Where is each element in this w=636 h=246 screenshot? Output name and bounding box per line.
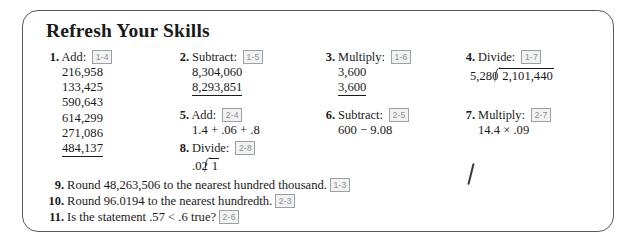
problem-4-reference-tag: 1-7 bbox=[521, 50, 541, 64]
problem-6-verb: Subtract: bbox=[338, 108, 383, 122]
question-11-number: 11. bbox=[42, 210, 64, 226]
problem-7: 7. Multiply: 2-7 14.4 × .09 bbox=[458, 108, 551, 138]
operand-last: 484,137 bbox=[62, 141, 103, 157]
problem-7-number: 7. bbox=[458, 108, 475, 123]
operand: 271,086 bbox=[62, 126, 112, 141]
operand-last: 3,600 bbox=[338, 80, 366, 96]
problem-4-long-division: 5,2802,101,440 bbox=[458, 68, 554, 84]
operand-last: 8,293,851 bbox=[192, 80, 242, 96]
operand: 8,304,060 bbox=[192, 65, 263, 80]
problem-2-number: 2. bbox=[172, 50, 189, 65]
problem-4-verb: Divide: bbox=[478, 50, 515, 64]
problem-1-verb: Add: bbox=[61, 50, 86, 64]
operand: 133,425 bbox=[62, 80, 112, 95]
page-title: Refresh Your Skills bbox=[46, 20, 210, 42]
problem-5-heading: 5. Add: 2-4 bbox=[172, 108, 260, 123]
question-10-text: Round 96.0194 to the nearest hundredth. bbox=[67, 194, 272, 208]
worksheet-page: Refresh Your Skills 1. Add: 1-4 216,958 … bbox=[0, 0, 636, 246]
problem-1-heading: 1. Add: 1-4 bbox=[42, 50, 112, 65]
dividend: 2,101,440 bbox=[499, 68, 553, 84]
problem-6-heading: 6. Subtract: 2-5 bbox=[318, 108, 409, 123]
problem-2-operands: 8,304,060 8,293,851 bbox=[172, 65, 263, 96]
problem-2: 2. Subtract: 1-5 8,304,060 8,293,851 bbox=[172, 50, 263, 96]
problem-7-reference-tag: 2-7 bbox=[531, 108, 551, 122]
question-11-text: Is the statement .57 < .6 true? bbox=[67, 210, 216, 224]
problem-7-heading: 7. Multiply: 2-7 bbox=[458, 108, 551, 123]
problem-5-expression: 1.4 + .06 + .8 bbox=[172, 123, 260, 138]
problem-2-reference-tag: 1-5 bbox=[243, 50, 263, 64]
problem-8: 8. Divide: 2-8 .021 bbox=[172, 141, 255, 174]
problem-8-verb: Divide: bbox=[192, 141, 229, 155]
question-10-number: 10. bbox=[42, 194, 64, 210]
operand: 614,299 bbox=[62, 111, 112, 126]
problem-8-number: 8. bbox=[172, 141, 189, 156]
operand: 216,958 bbox=[62, 65, 112, 80]
problem-1: 1. Add: 1-4 216,958 133,425 590,643 614,… bbox=[42, 50, 112, 157]
question-9-number: 9. bbox=[42, 178, 64, 194]
problem-1-reference-tag: 1-4 bbox=[92, 50, 112, 64]
problem-6-expression: 600 − 9.08 bbox=[318, 123, 409, 138]
problem-4-heading: 4. Divide: 1-7 bbox=[458, 50, 554, 65]
problem-3-heading: 3. Multiply: 1-6 bbox=[318, 50, 411, 65]
problem-7-expression: 14.4 × .09 bbox=[458, 123, 551, 138]
problem-5-number: 5. bbox=[172, 108, 189, 123]
operand: 3,600 bbox=[338, 65, 411, 80]
problem-3-number: 3. bbox=[318, 50, 335, 65]
problem-3: 3. Multiply: 1-6 3,600 3,600 bbox=[318, 50, 411, 96]
problem-5: 5. Add: 2-4 1.4 + .06 + .8 bbox=[172, 108, 260, 138]
problem-6: 6. Subtract: 2-5 600 − 9.08 bbox=[318, 108, 409, 138]
division-bracket-icon: 1 bbox=[208, 158, 219, 174]
question-10-reference-tag: 2-3 bbox=[275, 194, 295, 208]
question-10: 10.Round 96.0194 to the nearest hundredt… bbox=[42, 194, 295, 210]
operand: 590,643 bbox=[62, 95, 112, 110]
problem-3-verb: Multiply: bbox=[338, 50, 385, 64]
problem-8-heading: 8. Divide: 2-8 bbox=[172, 141, 255, 156]
problem-4: 4. Divide: 1-7 5,2802,101,440 bbox=[458, 50, 554, 84]
problem-3-operands: 3,600 3,600 bbox=[318, 65, 411, 96]
dividend: 1 bbox=[209, 158, 219, 174]
problem-5-reference-tag: 2-4 bbox=[222, 108, 242, 122]
problem-2-verb: Subtract: bbox=[192, 50, 237, 64]
problem-6-reference-tag: 2-5 bbox=[389, 108, 409, 122]
problem-5-verb: Add: bbox=[191, 108, 216, 122]
problem-1-operands: 216,958 133,425 590,643 614,299 271,086 … bbox=[42, 65, 112, 157]
problem-8-long-division: .021 bbox=[172, 158, 255, 174]
problem-8-reference-tag: 2-8 bbox=[235, 141, 255, 155]
question-11-reference-tag: 2-6 bbox=[219, 210, 239, 224]
problem-1-number: 1. bbox=[42, 50, 59, 65]
problem-6-number: 6. bbox=[318, 108, 335, 123]
problem-4-number: 4. bbox=[458, 50, 475, 65]
question-9-text: Round 48,263,506 to the nearest hundred … bbox=[67, 178, 327, 192]
question-9: 9.Round 48,263,506 to the nearest hundre… bbox=[42, 178, 350, 194]
problem-3-reference-tag: 1-6 bbox=[391, 50, 411, 64]
problem-2-heading: 2. Subtract: 1-5 bbox=[172, 50, 263, 65]
question-11: 11.Is the statement .57 < .6 true?2-6 bbox=[42, 210, 239, 226]
question-9-reference-tag: 1-3 bbox=[330, 178, 350, 192]
division-bracket-icon: 2,101,440 bbox=[498, 68, 553, 84]
problem-7-verb: Multiply: bbox=[478, 108, 525, 122]
